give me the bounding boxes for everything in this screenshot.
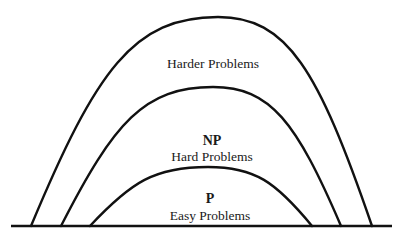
title-np: NP xyxy=(203,133,222,148)
curve-harder-problems xyxy=(31,17,372,226)
label-easy-problems: Easy Problems xyxy=(170,208,251,223)
complexity-diagram: Harder Problems NP Hard Problems P Easy … xyxy=(0,0,402,242)
label-hard-problems: Hard Problems xyxy=(171,149,252,164)
title-p: P xyxy=(206,191,215,206)
label-harder-problems: Harder Problems xyxy=(167,56,259,71)
